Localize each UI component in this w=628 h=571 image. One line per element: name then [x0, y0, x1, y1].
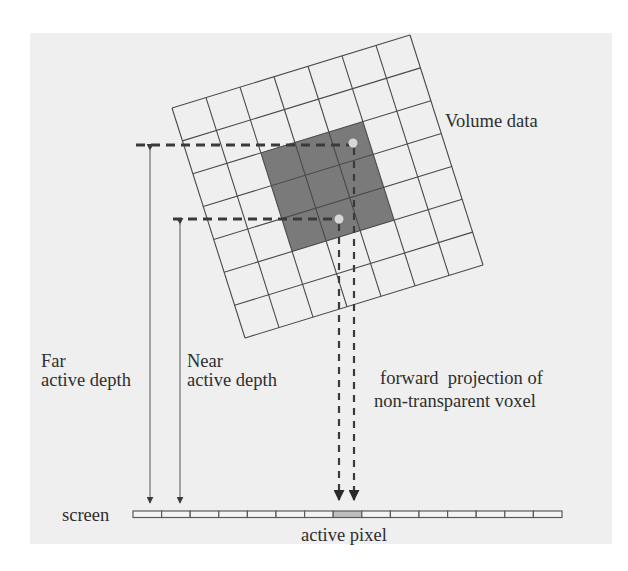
near-voxel-dot [335, 215, 344, 224]
screen-pixel-cell [247, 511, 276, 518]
screen-pixel-cell [190, 511, 219, 518]
screen-pixel-cell [305, 511, 334, 518]
screen-pixel-cell [276, 511, 305, 518]
far-voxel-dot [349, 139, 358, 148]
active-pixel-label: active pixel [301, 525, 387, 545]
far-active-depth-label: active depth [41, 370, 131, 390]
screen-pixel-cell [219, 511, 248, 518]
screen-pixel-cell [505, 511, 534, 518]
screen-pixel-cell [362, 511, 391, 518]
screen-pixel-cell [533, 511, 562, 518]
screen-pixel-cell [162, 511, 191, 518]
screen-pixel-cell [476, 511, 505, 518]
figure-panel [30, 33, 612, 544]
screen-label: screen [62, 505, 109, 525]
screen-pixel-cell [419, 511, 448, 518]
near-active-depth-label: active depth [187, 370, 277, 390]
screen-pixel-cell [133, 511, 162, 518]
near-label: Near [187, 351, 223, 371]
active-pixel-cell [333, 511, 362, 518]
screen-pixel-cell [390, 511, 419, 518]
screen-bar [133, 511, 562, 518]
projection-label-line2: non-transparent voxel [374, 391, 536, 411]
projection-label-line1: forward projection of [380, 368, 544, 388]
volume-data-label: Volume data [445, 111, 538, 131]
far-label: Far [41, 351, 66, 371]
volume-rendering-diagram: Volume data Far active depth Near active… [0, 0, 628, 571]
screen-pixel-cell [448, 511, 477, 518]
